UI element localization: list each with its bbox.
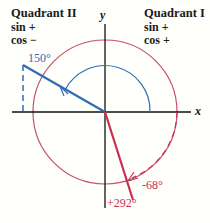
terminal-side-150 — [23, 65, 105, 112]
quadrant-ii-cos: cos − — [11, 34, 37, 47]
angle-label-292: +292° — [107, 196, 137, 211]
rotation-arc-150 — [65, 66, 150, 112]
rotation-arc-neg68 — [132, 112, 177, 178]
quadrant-ii-title: Quadrant II — [11, 6, 77, 21]
quadrant-i-cos: cos + — [144, 34, 170, 47]
quadrant-i-title: Quadrant I — [144, 6, 205, 21]
y-axis-label: y — [100, 8, 105, 23]
terminal-side-292 — [105, 112, 133, 200]
x-axis-label: x — [195, 104, 201, 119]
angle-label-neg68: -68° — [142, 178, 163, 193]
angle-label-150: 150° — [28, 51, 51, 66]
